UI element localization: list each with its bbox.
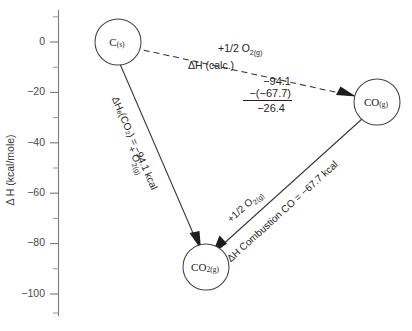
- node-co2-gas[interactable]: CO2(g): [183, 244, 229, 290]
- edge-c-to-co: [134, 48, 356, 97]
- edge-c-to-co2-label: ΔHₑ(CO₂) = −94.1 kcal: [110, 95, 160, 192]
- node-c-solid-state: (s): [117, 40, 125, 49]
- node-co-gas-state: (g): [379, 100, 388, 109]
- edge-co-to-co2: [212, 119, 362, 255]
- node-c-solid-formula: C: [109, 36, 116, 48]
- edge-c-to-co-arrowhead: [336, 87, 356, 97]
- y-axis-title: Δ H (kcal/mole): [4, 134, 16, 205]
- y-axis: 0 −20 −40 −60 −80 −100 Δ H (kcal/mole): [4, 10, 59, 316]
- edge-co-to-co2-line: [220, 119, 362, 247]
- y-tick-label-100: −100: [21, 287, 45, 299]
- y-tick-label-20: −20: [27, 85, 45, 97]
- calc-line-2: −(−67.7): [249, 87, 291, 99]
- node-co2-gas-formula: CO: [191, 261, 206, 273]
- node-c-solid[interactable]: C(s): [95, 19, 141, 65]
- node-co2-gas-state: (g): [210, 265, 219, 274]
- calc-line-3: −26.4: [257, 102, 285, 114]
- y-tick-label-40: −40: [27, 136, 45, 148]
- edge-c-to-co-reagent-label: +1/2 O2(g): [218, 42, 262, 57]
- y-tick-label-60: −60: [27, 186, 45, 198]
- calculation-block: −94.1 −(−67.7) −26.4: [243, 75, 292, 114]
- edge-co-to-co2-reagent-label: +1/2 O2(g): [225, 188, 266, 227]
- edge-c-to-co-reagent: +1/2 O: [218, 42, 250, 54]
- edge-c-to-co2-label-group: ΔHₑ(CO₂) = −94.1 kcal: [110, 95, 160, 192]
- node-co-gas-formula: CO: [364, 96, 379, 108]
- diagram-canvas: 0 −20 −40 −60 −80 −100 Δ H (kcal/mole): [0, 0, 412, 331]
- y-tick-label-0: 0: [39, 35, 45, 47]
- calc-line-1: −94.1: [263, 75, 291, 87]
- y-tick-label-80: −80: [27, 236, 45, 248]
- edge-c-to-co-label: ΔH (calc.): [188, 59, 234, 71]
- edge-co-to-co2-reagent-group: +1/2 O2(g): [225, 188, 266, 227]
- enthalpy-diagram-figure: 0 −20 −40 −60 −80 −100 Δ H (kcal/mole): [0, 0, 412, 331]
- node-co-gas[interactable]: CO(g): [354, 79, 400, 125]
- edge-c-to-co-reagent-state: (g): [254, 49, 263, 57]
- edge-c-to-co-line: [134, 48, 344, 94]
